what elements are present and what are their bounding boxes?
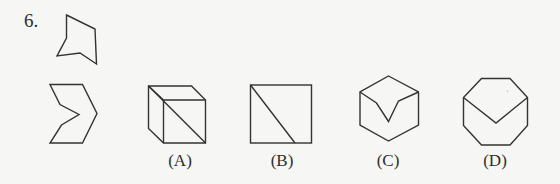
- option-d-figure[interactable]: [464, 79, 528, 146]
- option-a-figure[interactable]: [149, 86, 206, 143]
- stem-shape-2: [50, 85, 97, 144]
- option-b-figure[interactable]: [251, 85, 312, 143]
- option-d-label[interactable]: (D): [483, 151, 507, 171]
- option-b-label[interactable]: (B): [271, 151, 294, 171]
- option-c-label[interactable]: (C): [377, 151, 400, 171]
- stem-shape-1: [57, 15, 97, 64]
- option-c-figure[interactable]: [360, 76, 419, 141]
- option-a-label[interactable]: (A): [168, 151, 192, 171]
